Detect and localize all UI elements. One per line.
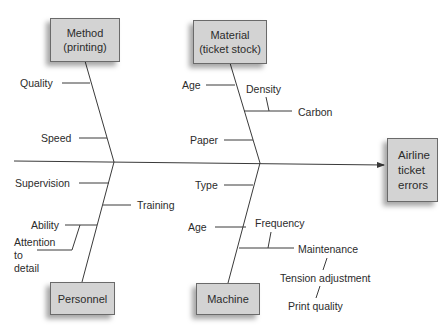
cause-label-tension-adjustment: Tension adjustment (280, 272, 370, 284)
cause-label-machine-age: Age (188, 221, 207, 233)
category-box-personnel: Personnel (50, 282, 115, 315)
personnel-bone (82, 162, 114, 282)
cause-label-print-quality: Print quality (288, 300, 343, 312)
cause-label-paper: Paper (190, 134, 218, 146)
category-box-method: Method (printing) (50, 18, 120, 62)
cause-label-quality: Quality (20, 77, 53, 89)
method-bone (85, 61, 114, 162)
spine-arrow (14, 161, 384, 165)
material-bone (230, 63, 260, 163)
cause-label-carbon: Carbon (298, 106, 332, 118)
effect-box: Airline ticket errors (387, 138, 438, 202)
category-box-machine: Machine (196, 283, 260, 315)
cause-label-density: Density (246, 83, 281, 95)
cause-label-training: Training (137, 199, 175, 211)
cause-label-frequency: Frequency (255, 217, 305, 229)
cause-label-material-age: Age (182, 79, 201, 91)
cause-label-type: Type (195, 179, 218, 191)
cause-label-maintenance: Maintenance (298, 243, 358, 255)
cause-label-ability: Ability (31, 219, 59, 231)
cause-label-attention-to-detail: Attention to detail (14, 236, 55, 275)
cause-label-supervision: Supervision (15, 177, 70, 189)
category-box-material: Material (ticket stock) (193, 20, 267, 64)
cause-label-speed: Speed (41, 132, 71, 144)
